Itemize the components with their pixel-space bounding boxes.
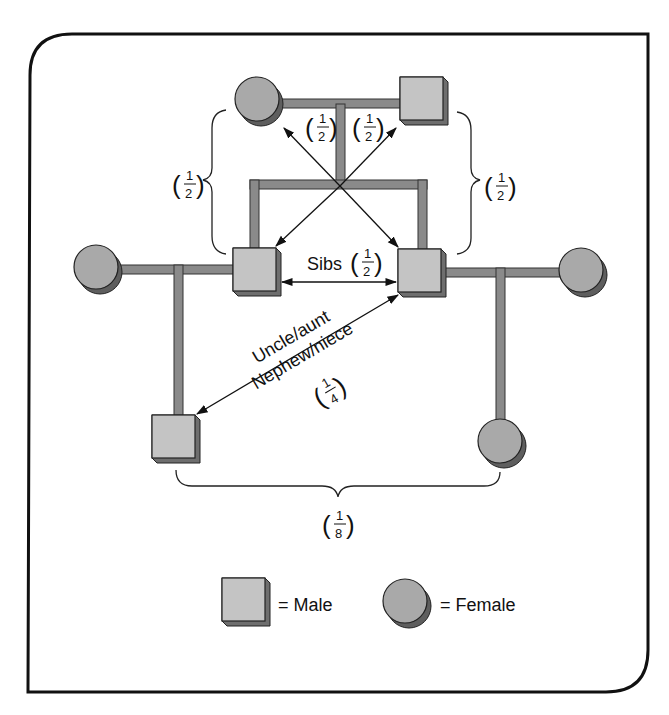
grandfather-male-symbol — [400, 77, 448, 125]
svg-text:): ) — [374, 248, 383, 278]
spouse-left-female-symbol — [74, 245, 122, 294]
svg-text:8: 8 — [335, 526, 342, 541]
svg-text:): ) — [329, 113, 338, 143]
svg-text:2: 2 — [365, 129, 372, 144]
svg-text:2: 2 — [497, 188, 504, 203]
label-sibs: Sibs ( 1 2 ) — [307, 246, 383, 279]
svg-text:(: ( — [305, 113, 314, 143]
svg-text:(: ( — [484, 172, 493, 202]
svg-text:(: ( — [322, 510, 331, 540]
svg-text:): ) — [376, 113, 385, 143]
svg-text:1: 1 — [498, 170, 505, 185]
svg-text:Sibs: Sibs — [307, 254, 342, 274]
svg-text:(: ( — [172, 170, 181, 200]
svg-text:2: 2 — [318, 129, 325, 144]
svg-text:1: 1 — [336, 508, 343, 523]
sibling-left-male-symbol — [233, 248, 281, 296]
label-cousin-fraction: ( 1 8 ) — [322, 508, 355, 541]
sibling-right-male-symbol — [398, 249, 446, 297]
svg-text:1: 1 — [319, 111, 326, 126]
svg-text:2: 2 — [185, 186, 192, 201]
label-uncle-fraction: ( 1 4 ) — [307, 369, 352, 414]
svg-text:): ) — [508, 172, 517, 202]
svg-text:2: 2 — [363, 264, 370, 279]
svg-text:): ) — [196, 170, 205, 200]
grandmother-female-symbol — [235, 77, 283, 126]
label-parent-right-fraction: ( 1 2 ) — [352, 111, 385, 144]
spouse-right-female-symbol — [559, 248, 607, 297]
svg-text:(: ( — [350, 248, 359, 278]
legend-female-symbol — [383, 579, 431, 628]
child-right-female-symbol — [478, 419, 526, 468]
legend-female-label: = Female — [440, 595, 516, 615]
legend: = Male = Female — [222, 578, 516, 628]
legend-male-symbol — [222, 578, 270, 626]
svg-text:1: 1 — [366, 111, 373, 126]
pedigree-diagram: ( 1 2 ) ( 1 2 ) ( 1 2 ) ( 1 2 ) Sibs ( 1… — [0, 0, 669, 715]
svg-text:1: 1 — [364, 246, 371, 261]
label-brace-left-fraction: ( 1 2 ) — [172, 168, 205, 201]
label-brace-right-fraction: ( 1 2 ) — [484, 170, 517, 203]
svg-text:1: 1 — [186, 168, 193, 183]
legend-male-label: = Male — [278, 595, 333, 615]
child-left-male-symbol — [152, 415, 200, 463]
label-parent-left-fraction: ( 1 2 ) — [305, 111, 338, 144]
svg-text:): ) — [346, 510, 355, 540]
svg-text:(: ( — [352, 113, 361, 143]
